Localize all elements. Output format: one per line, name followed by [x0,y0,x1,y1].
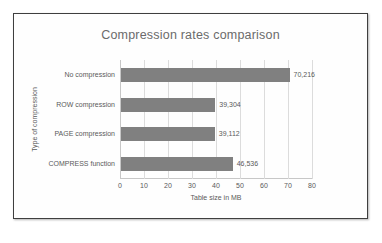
x-tick-label: 30 [188,182,196,189]
x-tick-label: 10 [140,182,148,189]
x-tick-label: 0 [118,182,122,189]
x-tick-label: 40 [212,182,220,189]
chart-title: Compression rates comparison [14,28,367,42]
chart-screenshot: Compression rates comparison 01020304050… [0,0,382,243]
category-tick-label: COMPRESS function [48,157,115,171]
bar[interactable] [121,68,290,82]
y-axis-title-text: Type of compression [31,87,38,152]
x-tick-label: 50 [236,182,244,189]
category-tick-label: PAGE compression [54,127,115,141]
x-tick-label: 20 [164,182,172,189]
bar[interactable] [121,157,233,171]
bar-value-label: 39,304 [219,98,240,112]
x-axis-title: Table size in MB [120,194,312,201]
y-axis-title: Type of compression [28,60,40,179]
chart-frame: Compression rates comparison 01020304050… [13,13,368,219]
bar-value-label: 39,112 [219,127,240,141]
bar-value-label: 46,536 [237,157,258,171]
bar[interactable] [121,98,215,112]
bar-value-label: 70,216 [294,68,315,82]
chart-canvas: Compression rates comparison 01020304050… [14,14,367,218]
x-tick-label: 70 [284,182,292,189]
x-tick-label: 60 [260,182,268,189]
category-tick-label: No compression [64,68,115,82]
x-tick-label: 80 [308,182,316,189]
bar[interactable] [121,127,215,141]
category-tick-label: ROW compression [56,98,115,112]
plot-area: 0102030405060708070,216No compression39,… [120,60,312,179]
